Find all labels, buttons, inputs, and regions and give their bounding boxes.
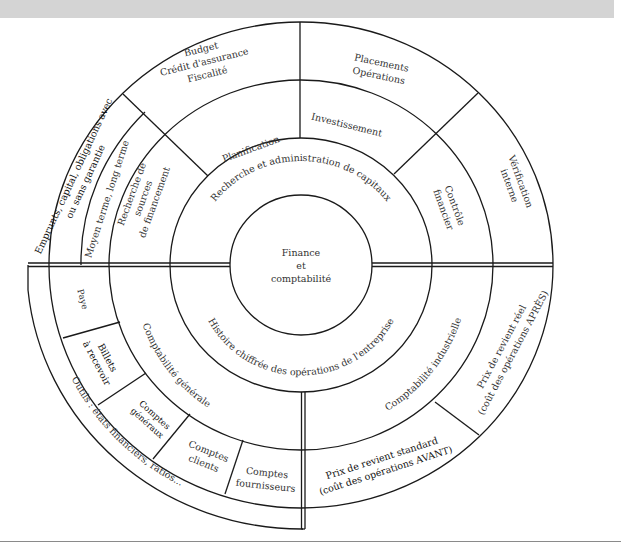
- label-paye: Paye: [75, 288, 90, 310]
- center-line-3: comptabilité: [271, 273, 332, 284]
- center-line-2: et: [296, 260, 306, 271]
- label-comptes-clients: Comptes clients: [182, 438, 230, 476]
- svg-text:Emprunts, capital, obligations: Emprunts, capital, obligations avec: [32, 96, 114, 255]
- label-comptes-fournisseurs: Comptes fournisseurs: [235, 464, 297, 494]
- label-comptes-generaux: Comptes généraux: [129, 397, 174, 440]
- label-investissement: Investissement: [310, 110, 383, 138]
- label-controle-financier: Contrôle financier: [431, 183, 467, 231]
- bottom-rule: [0, 541, 621, 542]
- label-comptabilite-generale: Comptabilité générale: [141, 321, 214, 409]
- center-label: Finance et comptabilité: [271, 247, 332, 284]
- lower-right-divider: [435, 402, 479, 435]
- label-histoire-chiffree: Histoire chiffrée des opérations de l'en…: [206, 316, 396, 378]
- finance-diagram: Finance et comptabilité Recherche et adm…: [0, 0, 621, 549]
- divider-upper-right: [394, 93, 478, 174]
- horizontal-divider: [28, 263, 553, 267]
- center-line-1: Finance: [282, 247, 321, 258]
- label-placements: Placements Opérations: [351, 52, 410, 87]
- label-billets: Billets à recevoir: [81, 333, 124, 387]
- label-prix-revient-standard: Prix de revient standard (coût des opéra…: [314, 431, 454, 497]
- label-outils: Outils : états financiers, ratios...: [70, 374, 185, 487]
- label-comptabilite-industrielle: Comptabilité industrielle: [383, 316, 464, 413]
